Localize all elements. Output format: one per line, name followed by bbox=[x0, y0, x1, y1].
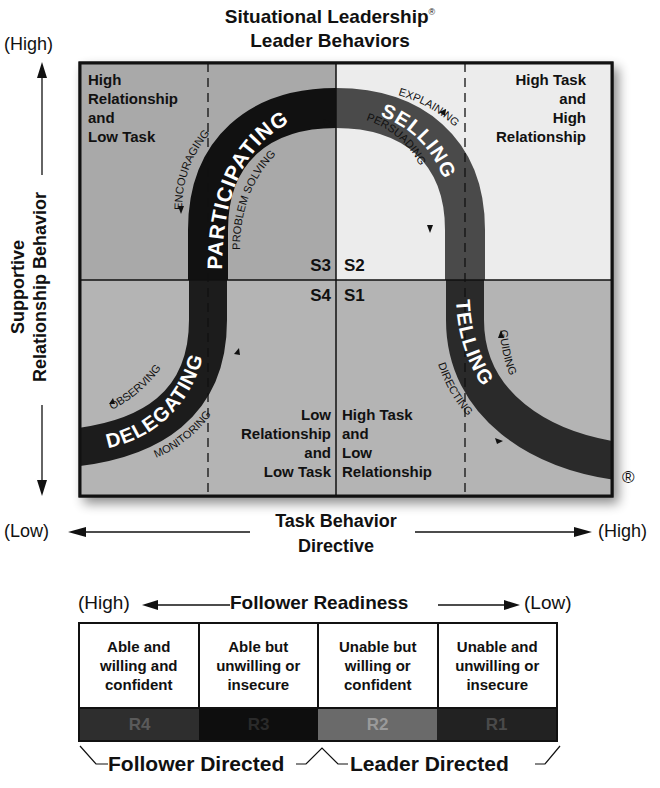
y-axis-title: Supportive Relationship Behavior bbox=[7, 157, 57, 417]
x-axis-low-label: (Low) bbox=[4, 521, 49, 542]
readiness-left-arrow-icon bbox=[142, 600, 158, 610]
readiness-cell-r3: Able butunwilling orinsecure bbox=[200, 624, 320, 707]
desc-line: High Task bbox=[342, 405, 432, 424]
readiness-high-label: (High) bbox=[78, 592, 130, 614]
readiness-low-label: (Low) bbox=[524, 592, 572, 614]
desc-line: Relationship bbox=[88, 89, 178, 108]
desc-line: Low Task bbox=[241, 462, 331, 481]
x-axis-left-arrow-icon bbox=[68, 527, 86, 537]
desc-line: High bbox=[88, 70, 178, 89]
readiness-code-r4: R4 bbox=[80, 709, 199, 740]
x-axis-title-line1: Task Behavior bbox=[236, 509, 436, 534]
desc-line: Low bbox=[342, 443, 432, 462]
desc-line: Relationship bbox=[342, 462, 432, 481]
code-s3: S3 bbox=[310, 256, 331, 276]
desc-line: High Task bbox=[496, 70, 586, 89]
cell-line: Unable but bbox=[339, 637, 417, 656]
cell-line: willing or bbox=[339, 656, 417, 675]
follower-directed-label: Follower Directed bbox=[108, 752, 284, 776]
y-axis-title-line2: Relationship Behavior bbox=[29, 157, 51, 417]
cell-line: unwilling or bbox=[455, 656, 539, 675]
readiness-code-r1: R1 bbox=[437, 709, 556, 740]
cell-line: Unable and bbox=[455, 637, 539, 656]
cell-line: unwilling or bbox=[216, 656, 300, 675]
readiness-code-row: R4 R3 R2 R1 bbox=[80, 707, 556, 740]
quadrant-s4-description: Low Relationship and Low Task bbox=[241, 405, 331, 481]
cell-line: insecure bbox=[216, 675, 300, 694]
y-axis-up-arrow-icon bbox=[37, 62, 47, 78]
registered-mark-corner: ® bbox=[622, 468, 635, 488]
desc-line: Relationship bbox=[496, 127, 586, 146]
desc-line: Low bbox=[241, 405, 331, 424]
cell-line: confident bbox=[339, 675, 417, 694]
quadrant-s3-description: High Relationship and Low Task bbox=[88, 70, 178, 146]
x-axis-high-label: (High) bbox=[598, 521, 647, 542]
readiness-title: Follower Readiness bbox=[230, 592, 408, 614]
follower-readiness-header: (High) Follower Readiness (Low) bbox=[78, 592, 560, 618]
desc-line: Relationship bbox=[241, 424, 331, 443]
quadrant-s1-description: High Task and Low Relationship bbox=[342, 405, 432, 481]
desc-line: and bbox=[342, 424, 432, 443]
code-s2: S2 bbox=[344, 256, 365, 276]
x-axis-right-arrow-icon bbox=[574, 527, 592, 537]
directed-brackets bbox=[0, 744, 660, 788]
x-axis-title: Task Behavior Directive bbox=[236, 509, 436, 559]
y-axis-title-line1: Supportive bbox=[7, 157, 29, 417]
desc-line: and bbox=[241, 443, 331, 462]
readiness-cell-r2: Unable butwilling orconfident bbox=[319, 624, 439, 707]
cell-line: willing and bbox=[100, 656, 178, 675]
readiness-cell-r1: Unable andunwilling orinsecure bbox=[439, 624, 557, 707]
readiness-code-r3: R3 bbox=[199, 709, 318, 740]
readiness-cell-r4: Able andwilling andconfident bbox=[80, 624, 200, 707]
readiness-right-arrow-icon bbox=[504, 600, 520, 610]
code-s4: S4 bbox=[310, 286, 331, 306]
cell-line: Able and bbox=[100, 637, 178, 656]
desc-line: High bbox=[496, 108, 586, 127]
cell-line: Able but bbox=[216, 637, 300, 656]
cell-line: insecure bbox=[455, 675, 539, 694]
readiness-description-row: Able andwilling andconfident Able butunw… bbox=[80, 624, 556, 707]
desc-line: and bbox=[88, 108, 178, 127]
desc-line: Low Task bbox=[88, 127, 178, 146]
y-axis-down-arrow-icon bbox=[37, 480, 47, 496]
code-s1: S1 bbox=[344, 286, 365, 306]
desc-line: and bbox=[496, 89, 586, 108]
cell-line: confident bbox=[100, 675, 178, 694]
leader-directed-label: Leader Directed bbox=[350, 752, 509, 776]
x-axis-title-line2: Directive bbox=[236, 534, 436, 559]
readiness-table: Able andwilling andconfident Able butunw… bbox=[78, 622, 558, 742]
quadrant-s2-description: High Task and High Relationship bbox=[496, 70, 586, 146]
readiness-code-r2: R2 bbox=[318, 709, 437, 740]
